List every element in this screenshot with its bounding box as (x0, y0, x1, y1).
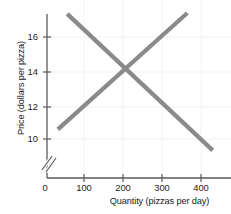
gridlines (47, 0, 231, 178)
y-axis-break-icon (42, 156, 56, 172)
x-tick-label-200: 200 (110, 182, 136, 193)
x-tick-label-100: 100 (71, 182, 97, 193)
demand-curve (67, 14, 213, 151)
x-axis-title: Quantity (pizzas per day) (88, 196, 231, 206)
supply-demand-chart: 16 14 12 10 0 100 200 300 400 Price (dol… (0, 0, 231, 214)
y-axis-title: Price (dollars per pizza) (14, 8, 28, 168)
x-tick-label-0: 0 (32, 182, 58, 193)
x-tick-label-300: 300 (149, 182, 175, 193)
x-tick-label-400: 400 (188, 182, 214, 193)
